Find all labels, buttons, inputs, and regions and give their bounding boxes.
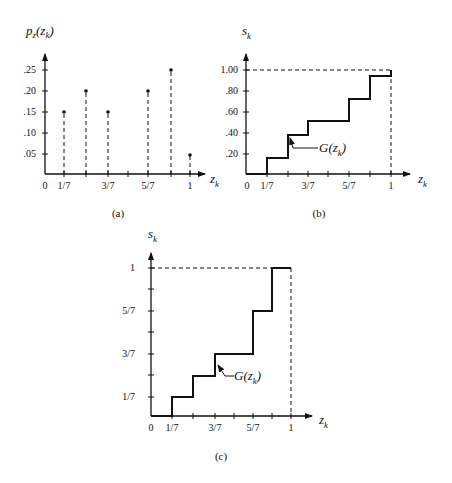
panel-c-reference-dash bbox=[151, 268, 291, 416]
panel-b-annotation: G(zk) bbox=[319, 140, 346, 158]
svg-text:.15: .15 bbox=[24, 106, 37, 117]
svg-text:1.00: 1.00 bbox=[221, 64, 239, 75]
figure: pz(zk) .25 .20 .15 .10 .05 0 bbox=[0, 0, 452, 483]
svg-text:1: 1 bbox=[130, 262, 135, 273]
panel-c-ylabel: sk bbox=[148, 226, 158, 244]
panel-c-yticks: 1 5/7 3/7 1/7 bbox=[122, 262, 154, 402]
panel-b-xlabel: zk bbox=[417, 171, 428, 189]
panel-a-yticks: .25 .20 .15 .10 .05 bbox=[24, 64, 49, 159]
svg-text:.40: .40 bbox=[226, 127, 239, 138]
svg-text:1/7: 1/7 bbox=[122, 391, 135, 402]
panel-c: sk 1 5/7 3/7 1/7 0 1/7 3/7 bbox=[122, 226, 329, 463]
svg-text:.20: .20 bbox=[226, 148, 239, 159]
panel-a-stems bbox=[62, 68, 192, 174]
svg-text:3/7: 3/7 bbox=[209, 422, 222, 433]
svg-text:1: 1 bbox=[389, 180, 394, 191]
svg-text:.20: .20 bbox=[24, 85, 37, 96]
svg-text:0: 0 bbox=[149, 422, 154, 433]
svg-text:0: 0 bbox=[245, 180, 250, 191]
svg-text:.60: .60 bbox=[226, 106, 239, 117]
panel-b-step-curve bbox=[246, 70, 391, 174]
svg-text:1: 1 bbox=[188, 180, 193, 191]
svg-text:1: 1 bbox=[289, 422, 294, 433]
svg-text:5/7: 5/7 bbox=[343, 180, 356, 191]
svg-text:3/7: 3/7 bbox=[102, 180, 115, 191]
panel-a-ylabel: pz(zk) bbox=[25, 23, 54, 40]
svg-text:3/7: 3/7 bbox=[122, 348, 135, 359]
svg-text:.80: .80 bbox=[226, 85, 239, 96]
panel-b-yticks: 1.00 .80 .60 .40 .20 bbox=[221, 64, 250, 159]
svg-text:5/7: 5/7 bbox=[142, 180, 155, 191]
svg-text:5/7: 5/7 bbox=[247, 422, 260, 433]
panel-b-ylabel: sk bbox=[242, 23, 252, 41]
panel-c-annotation: G(zk) bbox=[234, 368, 261, 386]
svg-text:1/7: 1/7 bbox=[261, 180, 274, 191]
svg-text:.05: .05 bbox=[24, 148, 37, 159]
panel-b: sk 1.00 .80 .60 .40 .20 0 1/7 3/7 bbox=[221, 23, 429, 220]
svg-text:5/7: 5/7 bbox=[122, 305, 135, 316]
panel-c-step-curve bbox=[151, 268, 291, 416]
panel-a-xlabel: zk bbox=[209, 171, 220, 189]
svg-text:1/7: 1/7 bbox=[58, 180, 71, 191]
panel-a-caption: (a) bbox=[112, 207, 125, 220]
panel-c-caption: (c) bbox=[215, 450, 228, 463]
svg-text:0: 0 bbox=[43, 180, 48, 191]
panel-b-caption: (b) bbox=[313, 207, 326, 220]
panel-a: pz(zk) .25 .20 .15 .10 .05 0 bbox=[24, 23, 221, 220]
svg-text:3/7: 3/7 bbox=[302, 180, 315, 191]
svg-text:1/7: 1/7 bbox=[166, 422, 179, 433]
svg-text:.10: .10 bbox=[24, 127, 37, 138]
svg-text:.25: .25 bbox=[24, 64, 37, 75]
panel-c-xlabel: zk bbox=[318, 412, 329, 430]
